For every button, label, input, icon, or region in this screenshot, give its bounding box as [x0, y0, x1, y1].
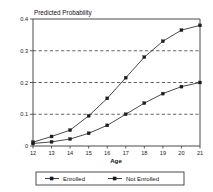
- data-point-marker: [87, 132, 90, 135]
- x-tick-label: 20: [178, 150, 184, 156]
- data-point-marker: [69, 138, 72, 141]
- data-point-marker: [87, 114, 90, 117]
- y-tick-label: 0.3: [20, 48, 28, 54]
- chart-container: Predicted Probability 00.10.20.30.4 1213…: [0, 0, 213, 192]
- x-tick-label: 13: [48, 150, 54, 156]
- legend-marker-enrolled: [50, 177, 53, 180]
- x-tick-label: 14: [67, 150, 73, 156]
- data-point-marker: [50, 140, 53, 143]
- data-point-marker: [124, 113, 127, 116]
- data-point-marker: [50, 135, 53, 138]
- x-tick-label: 15: [86, 150, 92, 156]
- predicted-probability-chart: Predicted Probability 00.10.20.30.4 1213…: [0, 0, 213, 192]
- data-point-marker: [199, 24, 202, 27]
- data-point-marker: [199, 81, 202, 84]
- data-point-marker: [143, 102, 146, 105]
- y-tick-label: 0.1: [20, 111, 28, 117]
- y-tick-label: 0.4: [20, 16, 28, 22]
- y-tick-label: 0: [25, 143, 28, 149]
- y-tick-label: 0.2: [20, 80, 28, 86]
- data-point-marker: [161, 92, 164, 95]
- legend: Enrolled Not Enrolled: [36, 172, 184, 185]
- data-point-marker: [180, 85, 183, 88]
- x-tick-label: 17: [123, 150, 129, 156]
- legend-label-enrolled: Enrolled: [63, 176, 85, 182]
- data-point-marker: [106, 124, 109, 127]
- x-axis-title: Age: [110, 157, 122, 164]
- x-tick-label: 21: [197, 150, 203, 156]
- data-point-marker: [143, 56, 146, 59]
- data-point-marker: [32, 141, 35, 144]
- x-tick-label: 19: [160, 150, 166, 156]
- chart-title: Predicted Probability: [34, 9, 93, 17]
- legend-label-not-enrolled: Not Enrolled: [126, 176, 159, 182]
- data-point-marker: [180, 29, 183, 32]
- x-tick-label: 12: [30, 150, 36, 156]
- data-point-marker: [124, 76, 127, 79]
- x-tick-label: 18: [141, 150, 147, 156]
- data-point-marker: [161, 40, 164, 43]
- legend-marker-not-enrolled: [113, 177, 116, 180]
- data-point-marker: [69, 129, 72, 132]
- data-point-marker: [106, 97, 109, 100]
- x-tick-label: 16: [104, 150, 110, 156]
